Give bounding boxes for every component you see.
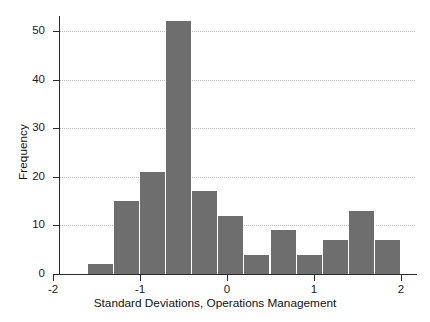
gridline bbox=[60, 128, 415, 129]
histogram-bar bbox=[349, 211, 375, 274]
x-axis-line bbox=[53, 274, 417, 275]
gridline bbox=[60, 80, 415, 81]
x-tick-label: -2 bbox=[33, 283, 73, 296]
histogram-bar bbox=[166, 21, 192, 274]
gridline bbox=[60, 177, 415, 178]
x-tick-label: 2 bbox=[381, 283, 421, 296]
x-tick-label: -1 bbox=[120, 283, 160, 296]
histogram-bar bbox=[114, 201, 140, 274]
y-tick-mark bbox=[53, 31, 60, 32]
y-tick-mark bbox=[53, 128, 60, 129]
y-tick-mark bbox=[53, 274, 60, 275]
histogram-bar bbox=[323, 240, 349, 274]
plot-area: 01020304050 -2-1012 Frequency Standard D… bbox=[0, 0, 430, 322]
x-axis-title: Standard Deviations, Operations Manageme… bbox=[0, 296, 430, 310]
histogram-chart: 01020304050 -2-1012 Frequency Standard D… bbox=[0, 0, 430, 322]
histogram-bar bbox=[192, 191, 218, 274]
y-tick-label: 50 bbox=[5, 25, 45, 36]
histogram-bar bbox=[218, 216, 244, 274]
y-tick-mark bbox=[53, 80, 60, 81]
histogram-bar bbox=[297, 255, 323, 274]
histogram-bar bbox=[244, 255, 270, 274]
x-tick-mark bbox=[314, 274, 315, 281]
gridline bbox=[60, 31, 415, 32]
x-tick-mark bbox=[140, 274, 141, 281]
y-axis-line bbox=[59, 16, 60, 275]
x-tick-label: 1 bbox=[294, 283, 334, 296]
y-tick-mark bbox=[53, 225, 60, 226]
x-tick-mark bbox=[227, 274, 228, 281]
histogram-bar bbox=[271, 230, 297, 274]
x-tick-label: 0 bbox=[207, 283, 247, 296]
histogram-bar bbox=[140, 172, 166, 274]
histogram-bar bbox=[375, 240, 401, 274]
histogram-bar bbox=[88, 264, 114, 274]
y-tick-label: 0 bbox=[5, 268, 45, 279]
y-tick-mark bbox=[53, 177, 60, 178]
x-tick-mark bbox=[401, 274, 402, 281]
y-axis-title: Frequency bbox=[16, 82, 30, 222]
x-tick-mark bbox=[53, 274, 54, 281]
